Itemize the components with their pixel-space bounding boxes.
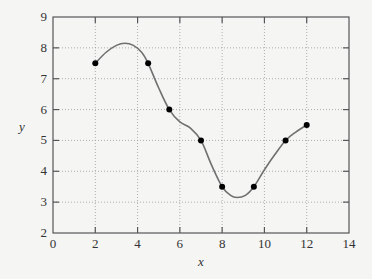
y-tick-label: 3	[41, 194, 48, 209]
x-tick-label: 4	[134, 236, 141, 251]
x-tick-label: 0	[50, 236, 57, 251]
data-point	[166, 107, 172, 113]
y-tick-label: 9	[41, 9, 48, 24]
y-tick-label: 4	[41, 163, 48, 178]
data-point	[92, 60, 98, 66]
data-point	[283, 137, 289, 143]
data-point	[219, 184, 225, 190]
y-tick-label: 6	[41, 102, 48, 117]
x-tick-label: 10	[258, 236, 271, 251]
y-tick-label: 2	[41, 225, 48, 240]
data-point	[198, 137, 204, 143]
data-point	[145, 60, 151, 66]
data-point	[251, 184, 257, 190]
x-tick-label: 6	[177, 236, 184, 251]
y-tick-label: 5	[41, 132, 48, 147]
y-tick-label: 8	[41, 40, 48, 55]
x-tick-label: 12	[300, 236, 313, 251]
x-tick-label: 14	[343, 236, 357, 251]
interpolating-curve	[95, 43, 306, 197]
y-axis-label: y	[17, 119, 25, 134]
data-point	[304, 122, 310, 128]
y-tick-label: 7	[41, 71, 48, 86]
x-axis-label: x	[197, 254, 204, 269]
x-tick-labels: 02468101214	[50, 236, 356, 251]
x-tick-label: 2	[92, 236, 99, 251]
curve-path	[95, 43, 306, 197]
line-chart: 02468101214 23456789 x y	[0, 0, 372, 279]
y-tick-labels: 23456789	[41, 9, 48, 240]
data-point-markers	[92, 60, 309, 189]
x-tick-label: 8	[219, 236, 226, 251]
